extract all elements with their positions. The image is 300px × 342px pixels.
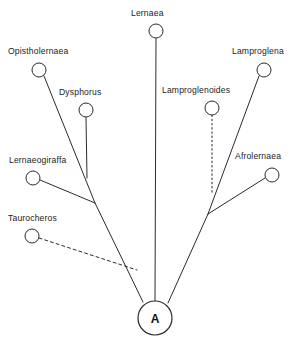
- node-lernaeogiraffa[interactable]: [26, 171, 40, 185]
- node-dysphorus[interactable]: [79, 103, 93, 117]
- root-label: A: [151, 312, 160, 326]
- label-taurocheros: Taurocheros: [8, 213, 57, 223]
- branch-right-main-upper: [208, 76, 259, 214]
- node-lamproglenoides[interactable]: [205, 101, 219, 115]
- node-opistholernaea[interactable]: [32, 63, 46, 77]
- branch-afrolernaea: [208, 178, 265, 214]
- label-lernaea: Lernaea: [131, 8, 164, 18]
- node-lamproglena[interactable]: [257, 63, 271, 77]
- branch-lernaea: [155, 38, 156, 301]
- branch-taurocheros: [39, 238, 137, 270]
- branch-right-main-lower: [168, 214, 208, 303]
- label-lamproglena: Lamproglena: [232, 46, 284, 56]
- node-afrolernaea[interactable]: [265, 168, 279, 182]
- cladogram-diagram: A Lernaea Opistholernaea Dysphorus Lerna…: [0, 0, 300, 342]
- node-lernaea[interactable]: [149, 24, 163, 38]
- label-dysphorus: Dysphorus: [59, 87, 101, 97]
- phylogenetic-tree: A Lernaea Opistholernaea Dysphorus Lerna…: [0, 0, 300, 342]
- label-lernaeogiraffa: Lernaeogiraffa: [9, 155, 66, 165]
- label-opistholernaea: Opistholernaea: [8, 46, 68, 56]
- branch-dysphorus: [86, 117, 87, 178]
- branch-lines: [39, 38, 265, 303]
- label-afrolernaea: Afrolernaea: [235, 151, 281, 161]
- taxon-nodes: [25, 24, 279, 243]
- branch-left-main-lower: [95, 203, 143, 302]
- taxon-labels: Lernaea Opistholernaea Dysphorus Lernaeo…: [8, 8, 284, 223]
- label-lamproglenoides: Lamproglenoides: [162, 85, 230, 95]
- node-taurocheros[interactable]: [25, 229, 39, 243]
